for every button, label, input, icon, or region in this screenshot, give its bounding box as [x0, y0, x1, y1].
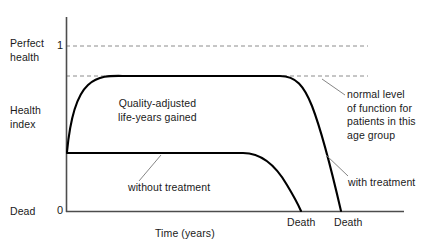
- annotation-with-treatment: with treatment: [348, 176, 415, 189]
- perfect-health-line2: health: [10, 51, 44, 65]
- axis-label-perfect-health: Perfect health: [10, 37, 44, 64]
- normal-level-line1: normal level: [347, 88, 416, 102]
- annotation-qaly-gained: Quality-adjusted life-years gained: [118, 97, 197, 124]
- normal-level-line3: patients in this: [347, 115, 416, 129]
- x-axis-title: Time (years): [155, 227, 215, 240]
- health-index-line2: index: [10, 118, 41, 132]
- perfect-health-line1: Perfect: [10, 37, 44, 51]
- y-tick-1: 1: [57, 39, 63, 51]
- qaly-gained-line2: life-years gained: [118, 111, 197, 125]
- x-tick-death-without-treatment: Death: [287, 216, 316, 229]
- qaly-chart-figure: Perfect health Health index Dead 1 0 Dea…: [0, 0, 424, 252]
- x-tick-death-with-treatment: Death: [334, 216, 363, 229]
- qaly-gained-line1: Quality-adjusted: [118, 97, 197, 111]
- y-tick-0: 0: [57, 204, 63, 216]
- axis-label-health-index: Health index: [10, 104, 41, 131]
- normal-level-line2: of function for: [347, 102, 416, 116]
- annotation-without-treatment: without treatment: [128, 181, 210, 194]
- annotation-normal-level: normal level of function for patients in…: [347, 88, 416, 142]
- without-treatment-leader-line: [139, 155, 161, 181]
- normal-level-line4: age group: [347, 129, 416, 143]
- axis-label-dead: Dead: [10, 205, 36, 218]
- normal-level-leader-line: [322, 79, 345, 95]
- health-index-line1: Health: [10, 104, 41, 118]
